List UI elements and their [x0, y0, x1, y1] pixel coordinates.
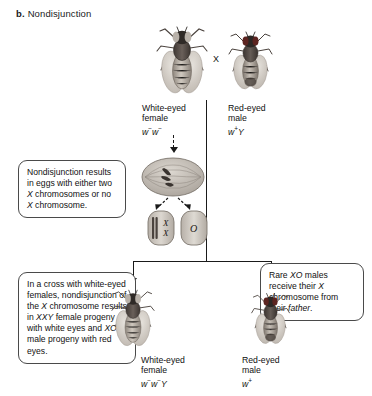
parent-female-label: White-eyed female	[142, 103, 208, 124]
progeny-female-label: White-eyed female	[141, 355, 213, 376]
progeny-male-genotype: w+	[242, 376, 252, 389]
panel-letter: b.	[16, 8, 25, 19]
fly-white-eyed-female-progeny	[106, 286, 160, 350]
panel-title: Nondisjunction	[28, 8, 92, 19]
dividing-oocyte-art	[140, 155, 206, 199]
connector-progeny-horizontal	[133, 261, 272, 262]
fly-white-eyed-female-parent	[155, 22, 209, 98]
fly-red-eyed-male-progeny	[249, 290, 293, 348]
egg-xx-label-bottom: X	[162, 228, 169, 238]
drosophila-female-white-eyed-art	[155, 22, 209, 98]
egg-with-no-x-chromosome: O	[180, 210, 208, 246]
parent-female-genotype: w−w−	[142, 124, 162, 137]
panel-heading: b.Nondisjunction	[16, 8, 91, 19]
egg-xx-label-top: X	[162, 218, 169, 228]
callout-nondisjunction-note: Nondisjunction results in eggs with eith…	[18, 160, 126, 218]
egg-o-label: O	[190, 223, 197, 234]
progeny-male-label: Red-eyed male	[242, 355, 312, 376]
parent-male-label: Red-eyed male	[228, 103, 298, 124]
nondisjunction-figure: b.Nondisjunction	[0, 0, 372, 396]
drosophila-male-red-eyed-art	[228, 28, 274, 94]
fly-red-eyed-male-parent	[228, 28, 274, 94]
egg-with-two-x-chromosomes: X X	[147, 210, 175, 246]
parent-male-genotype: w+Y	[228, 124, 244, 137]
arrowhead-to-meiosis	[170, 147, 178, 153]
cross-symbol: X	[213, 54, 219, 64]
progeny-female-genotype: w−w−Y	[141, 376, 167, 389]
